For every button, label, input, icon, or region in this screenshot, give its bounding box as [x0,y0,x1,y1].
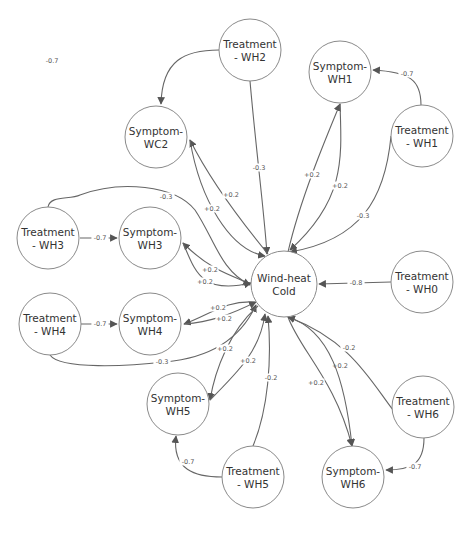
node-circle [391,251,453,313]
node-label-line1: Symptom- [123,226,178,238]
node-circle [309,41,371,103]
edge-weight-label: -0.7 [94,234,107,242]
node-label-line1: Treatment [20,226,74,238]
edge-wind-heat-cold-to-symptom-wc2: +0.2 [190,140,268,254]
node-symptom-wh1: Symptom-WH1 [309,41,371,103]
node-symptom-wh3: Symptom-WH3 [119,207,181,269]
node-symptom-wc2: Symptom-WC2 [125,106,187,168]
edge-weight-label: +0.2 [202,266,218,274]
edge-weight-label: +0.2 [304,171,320,179]
node-label-line2: - WH3 [32,239,64,251]
edge-treatment-wh6-to-symptom-wh6: -0.7 [386,438,424,471]
node-label-line1: Symptom- [313,60,368,72]
node-circle [222,446,284,508]
node-treatment-wh1: Treatment- WH1 [391,105,453,167]
node-symptom-wh5: Symptom-WH5 [147,373,209,435]
edge-wind-heat-cold-to-symptom-wh1: +0.2 [288,104,340,252]
edge-weight-label: -0.7 [46,57,59,65]
edge-weight-label: -0.3 [156,358,169,366]
edge-weight-label: +0.2 [216,315,232,323]
node-label-line2: - WH4 [34,325,66,337]
edge-treatment-wh0-to-wind-heat-cold: -0.8 [319,279,391,288]
edge-weight-label: -0.2 [265,374,278,382]
node-label-line1: Treatment [222,38,276,50]
node-label-line1: Symptom- [151,392,206,404]
node-treatment-wh3: Treatment- WH3 [17,207,79,269]
node-label-line2: WH5 [166,405,191,417]
edge-symptom-wh5-to-wind-heat-cold: +0.2 [210,314,265,400]
edge-weight-label: -0.3 [253,164,266,172]
node-label-line1: Symptom- [123,312,178,324]
edge-weight-label: -0.7 [401,70,414,78]
node-label-line2: - WH2 [234,51,266,63]
node-circle [219,19,281,81]
node-circle [19,293,81,355]
edge-treatment-wh4-to-symptom-wh4: -0.7 [81,320,117,329]
edge-weight-label: +0.2 [204,205,220,213]
node-label-line1: Symptom- [326,465,381,477]
node-label-line2: - WH1 [406,137,438,149]
edge-arrow-path [176,436,222,477]
edge-weight-label: -0.3 [357,212,370,220]
edge-treatment-wh1-to-symptom-wh1: -0.7 [373,70,421,106]
edge-weight-label: +0.2 [210,304,226,312]
edge-weight-label: +0.2 [217,345,233,353]
causal-diagram: -0.7-0.3-0.7-0.3+0.2+0.2+0.2+0.2-0.3-0.7… [0,0,472,545]
edge-treatment-wh5-to-symptom-wh5: -0.7 [176,436,222,477]
edge-weight-label: -0.2 [343,344,356,352]
node-label-line2: Cold [272,285,295,297]
edge-treatment-wh3-to-symptom-wh3: -0.7 [80,234,117,243]
edge-treatment-wh2-to-symptom-wc2: -0.7 [43,50,219,104]
node-symptom-wh6: Symptom-WH6 [322,446,384,508]
node-label-line1: Treatment [22,312,76,324]
node-circle [119,293,181,355]
node-label-line1: Symptom- [129,125,184,137]
edge-weight-label: -0.3 [160,193,173,201]
node-treatment-wh5: Treatment- WH5 [222,446,284,508]
node-label-line2: WH4 [138,325,163,337]
edge-weight-label: +0.2 [332,182,348,190]
node-treatment-wh2: Treatment- WH2 [219,19,281,81]
edge-arrow-path [210,314,265,400]
node-circle [392,376,454,438]
node-label-line1: Treatment [225,465,279,477]
node-label-line2: - WH6 [407,408,439,420]
nodes-layer: Treatment- WH2Symptom-WH1Treatment- WH1S… [17,19,454,508]
node-label-line2: WC2 [144,138,168,150]
node-label-line1: Treatment [395,395,449,407]
node-treatment-wh6: Treatment- WH6 [392,376,454,438]
node-label-line2: WH1 [328,73,353,85]
node-circle [119,207,181,269]
node-circle [322,446,384,508]
edge-weight-label: +0.2 [223,191,239,199]
node-circle [251,251,317,317]
node-treatment-wh0: Treatment- WH0 [391,251,453,313]
edges-layer: -0.7-0.3-0.7-0.3+0.2+0.2+0.2+0.2-0.3-0.7… [43,50,424,477]
edge-weight-label: -0.7 [409,463,422,471]
edge-weight-label: +0.2 [240,357,256,365]
node-treatment-wh4: Treatment- WH4 [19,293,81,355]
node-circle [147,373,209,435]
node-circle [391,105,453,167]
node-label-line2: WH3 [138,239,163,251]
node-label-line1: Treatment [394,270,448,282]
edge-weight-label: -0.8 [350,279,363,287]
edge-weight-label: -0.7 [94,320,107,328]
edge-treatment-wh2-to-wind-heat-cold: -0.3 [250,81,268,254]
node-label-line1: Wind-heat [257,272,311,284]
node-label-line1: Treatment [394,124,448,136]
node-label-line2: - WH5 [237,478,269,490]
node-circle [125,106,187,168]
node-symptom-wh4: Symptom-WH4 [119,293,181,355]
edge-treatment-wh5-to-wind-heat-cold: -0.2 [253,316,280,446]
edge-weight-label: +0.2 [197,278,213,286]
node-wind-heat-cold: Wind-heatCold [251,251,317,317]
node-label-line2: - WH0 [406,283,438,295]
edge-weight-label: +0.2 [308,379,324,387]
node-circle [17,207,79,269]
node-label-line2: WH6 [341,478,366,490]
edge-weight-label: -0.7 [182,458,195,466]
edge-arrow-path [161,50,219,104]
